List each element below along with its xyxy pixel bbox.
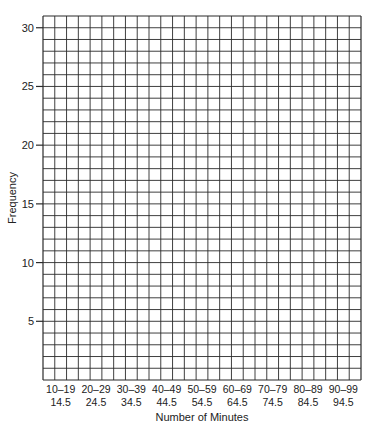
x-category-label: 30–39 xyxy=(117,383,146,395)
x-midpoint-label: 44.5 xyxy=(156,396,177,408)
x-category-label: 90–99 xyxy=(329,383,358,395)
x-midpoint-label: 34.5 xyxy=(121,396,142,408)
x-midpoint-label: 64.5 xyxy=(227,396,248,408)
x-category-label: 80–89 xyxy=(293,383,322,395)
x-category-label: 20–29 xyxy=(81,383,110,395)
y-tick-label: 30 xyxy=(22,22,34,34)
x-category-label: 40–49 xyxy=(152,383,181,395)
x-axis-labels: 10–1914.520–2924.530–3934.540–4944.550–5… xyxy=(46,383,358,408)
y-axis-ticks: 51015202530 xyxy=(22,22,43,328)
x-category-label: 60–69 xyxy=(223,383,252,395)
x-category-label: 10–19 xyxy=(46,383,75,395)
x-midpoint-label: 14.5 xyxy=(50,396,71,408)
frequency-grid-chart: 51015202530 10–1914.520–2924.530–3934.54… xyxy=(0,0,376,430)
y-tick-label: 15 xyxy=(22,198,34,210)
grid-lines xyxy=(43,16,361,380)
y-tick-label: 10 xyxy=(22,257,34,269)
y-axis-title: Frequency xyxy=(6,172,18,224)
x-category-label: 70–79 xyxy=(258,383,287,395)
x-axis-title: Number of Minutes xyxy=(156,411,249,423)
x-midpoint-label: 84.5 xyxy=(298,396,319,408)
x-midpoint-label: 24.5 xyxy=(86,396,107,408)
x-midpoint-label: 74.5 xyxy=(262,396,283,408)
x-midpoint-label: 54.5 xyxy=(192,396,213,408)
y-tick-label: 25 xyxy=(22,80,34,92)
y-tick-label: 20 xyxy=(22,139,34,151)
x-category-label: 50–59 xyxy=(187,383,216,395)
x-midpoint-label: 94.5 xyxy=(333,396,354,408)
y-tick-label: 5 xyxy=(28,315,34,327)
